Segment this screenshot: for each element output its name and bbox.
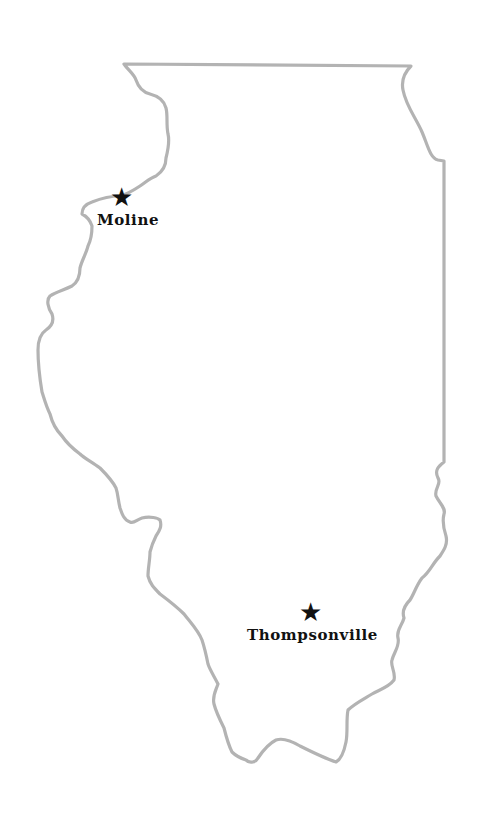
city-label-thompsonville: Thompsonville bbox=[247, 628, 378, 643]
city-label-moline: Moline bbox=[97, 213, 159, 228]
illinois-state-outline bbox=[0, 0, 483, 816]
star-icon: ★ bbox=[299, 599, 322, 625]
star-icon: ★ bbox=[110, 184, 133, 210]
illinois-map: ★ Moline ★ Thompsonville bbox=[0, 0, 483, 816]
